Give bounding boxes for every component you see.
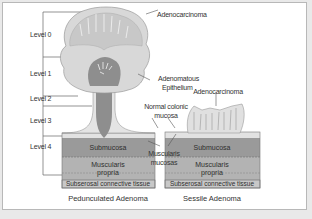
sessile-caption: Sessile Adenoma <box>183 194 241 203</box>
normal-mucosa-label-2: mucosa <box>154 112 177 119</box>
adenomatous-label: Adenomatous <box>158 75 199 82</box>
pedunculated-muscularis-label-1: Muscularis <box>91 161 124 168</box>
sessile-adenoma <box>187 104 244 133</box>
epithelium-label: Epithelium <box>162 84 193 91</box>
sessile-muscularis-label-2: propria <box>201 169 223 176</box>
sessile-subserosal-label: Subserosal connective tissue <box>170 181 254 188</box>
sessile-submucosa-label: Submucosa <box>194 144 231 151</box>
adenocarcinoma-sessile-label: Adenocarcinoma <box>193 88 243 95</box>
normal-mucosa-label-1: Normal colonic <box>144 103 188 110</box>
pedunculated-muscularis-label-2: propria <box>97 169 119 176</box>
muscularis-mucosae-label-1: Muscularis <box>148 150 179 157</box>
pedunculated-subserosal-label: Subserosal connective tissue <box>66 181 150 188</box>
pedunculated-stalk <box>62 88 155 138</box>
pedunculated-head <box>60 7 149 93</box>
sessile-muscularis-label-1: Muscularis <box>195 161 228 168</box>
level-3-label: Level 3 <box>30 117 51 124</box>
level-1-label: Level 1 <box>30 70 51 77</box>
pedunculated-caption: Pedunculated Adenoma <box>68 194 148 203</box>
adenocarcinoma-pedunculated-label: Adenocarcinoma <box>157 11 207 18</box>
level-4-label: Level 4 <box>30 143 51 150</box>
level-2-label: Level 2 <box>30 95 51 102</box>
level-0-label: Level 0 <box>30 31 51 38</box>
muscularis-mucosae-label-2: mucosas <box>151 159 178 166</box>
pedunculated-submucosa-label: Submucosa <box>90 144 127 151</box>
